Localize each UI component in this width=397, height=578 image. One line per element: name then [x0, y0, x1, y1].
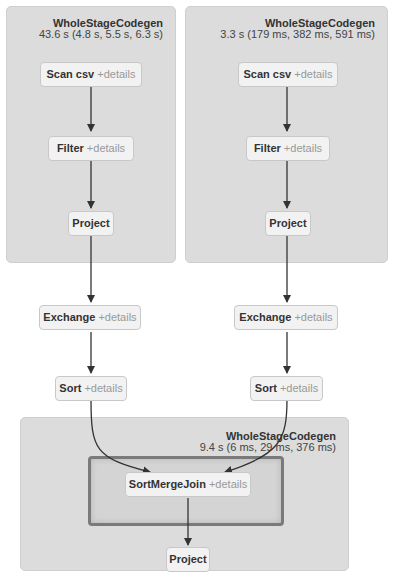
node-name: Sort: [255, 382, 277, 394]
details-link[interactable]: +details: [87, 142, 125, 154]
node-name: Filter: [57, 142, 84, 154]
node-name: Sort: [59, 382, 81, 394]
node-name: Project: [269, 217, 306, 229]
node-name: Scan csv: [47, 68, 95, 80]
node-name: Filter: [254, 142, 281, 154]
node-sort-left[interactable]: Sort +details: [55, 376, 127, 401]
node-name: Project: [72, 217, 109, 229]
node-filter-right[interactable]: Filter +details: [246, 136, 330, 161]
node-name: Scan csv: [244, 68, 292, 80]
node-scan-csv-left[interactable]: Scan csv +details: [40, 62, 142, 87]
node-project-left[interactable]: Project: [68, 211, 114, 236]
node-project-right[interactable]: Project: [265, 211, 311, 236]
details-link[interactable]: +details: [209, 478, 247, 490]
node-name: Exchange: [43, 311, 95, 323]
cluster-metrics: 3.3 s (179 ms, 382 ms, 591 ms): [220, 29, 375, 40]
details-link[interactable]: +details: [284, 142, 322, 154]
node-name: SortMergeJoin: [129, 478, 206, 490]
details-link[interactable]: +details: [280, 382, 318, 394]
cluster-metrics: 43.6 s (4.8 s, 5.5 s, 6.3 s): [39, 29, 163, 40]
details-link[interactable]: +details: [97, 68, 135, 80]
node-sort-merge-join[interactable]: SortMergeJoin +details: [125, 472, 251, 497]
node-exchange-right[interactable]: Exchange +details: [234, 305, 338, 330]
details-link[interactable]: +details: [294, 311, 332, 323]
node-sort-right[interactable]: Sort +details: [250, 376, 323, 401]
node-name: Exchange: [239, 311, 291, 323]
details-link[interactable]: +details: [84, 382, 122, 394]
node-exchange-left[interactable]: Exchange +details: [39, 305, 141, 330]
cluster-label: WholeStageCodegen 43.6 s (4.8 s, 5.5 s, …: [39, 18, 163, 40]
node-filter-left[interactable]: Filter +details: [48, 136, 134, 161]
cluster-metrics: 9.4 s (6 ms, 29 ms, 376 ms): [200, 442, 336, 453]
details-link[interactable]: +details: [294, 68, 332, 80]
cluster-label: WholeStageCodegen 9.4 s (6 ms, 29 ms, 37…: [200, 431, 336, 453]
node-name: Project: [169, 553, 206, 565]
details-link[interactable]: +details: [98, 311, 136, 323]
node-project-final[interactable]: Project: [166, 547, 210, 572]
cluster-label: WholeStageCodegen 3.3 s (179 ms, 382 ms,…: [220, 18, 375, 40]
node-scan-csv-right[interactable]: Scan csv +details: [238, 62, 338, 87]
